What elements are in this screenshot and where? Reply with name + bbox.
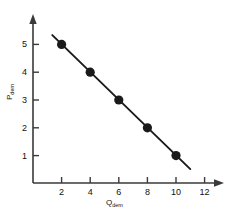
data-point-marker	[114, 95, 123, 104]
x-tick-label-8: 8	[139, 188, 155, 197]
x-tick-label-10: 10	[168, 188, 184, 197]
x-axis-arrow-icon	[214, 179, 224, 186]
y-axis-title: Pdem	[6, 84, 14, 100]
x-tick-label-2: 2	[54, 188, 70, 197]
x-axis-ticks	[62, 177, 205, 183]
y-tick-label-4: 4	[13, 68, 27, 77]
x-axis-title: Qdem	[106, 199, 123, 207]
data-point-marker	[86, 68, 95, 77]
y-tick-label-2: 2	[13, 124, 27, 133]
data-point-marker	[57, 40, 66, 49]
y-axis-title-subscript: dem	[9, 84, 15, 95]
x-tick-label-4: 4	[82, 188, 98, 197]
x-axis-title-subscript: dem	[112, 202, 123, 208]
y-tick-label-1: 1	[13, 152, 27, 161]
chart-plot-area	[0, 0, 236, 213]
y-tick-label-3: 3	[13, 96, 27, 105]
data-point-marker	[171, 151, 180, 160]
y-tick-label-5: 5	[13, 40, 27, 49]
x-tick-label-12: 12	[197, 188, 213, 197]
y-axis-arrow-icon	[29, 14, 36, 24]
data-point-marker	[143, 123, 152, 132]
demand-curve-chart: 5 4 3 2 1 2 4 6 8 10 12 Qdem Pdem	[0, 0, 236, 213]
x-tick-label-6: 6	[111, 188, 127, 197]
y-axis-ticks	[33, 44, 39, 155]
y-axis-title-base: P	[5, 95, 14, 100]
